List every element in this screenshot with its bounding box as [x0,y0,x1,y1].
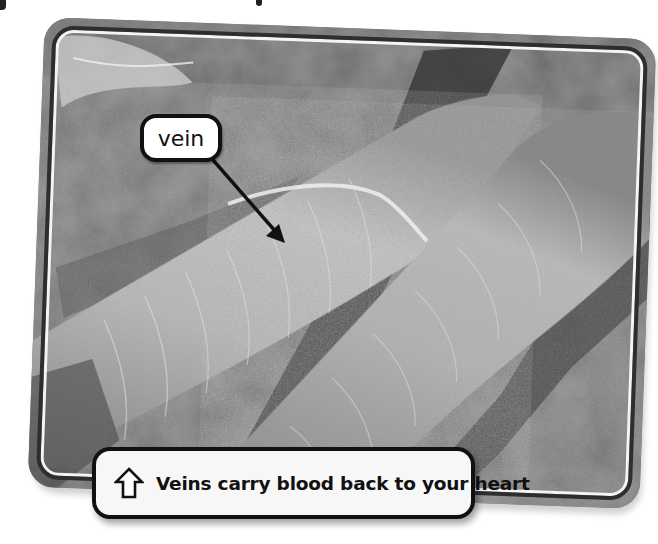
vein-micrograph-photo [28,17,657,509]
micrograph-frame [28,17,657,509]
vein-callout-text: vein [158,126,205,151]
page-edge-fragment [0,0,6,10]
page-edge-fragment [256,0,262,6]
caption-text: Veins carry blood back to your heart [156,473,530,494]
vein-callout-label: vein [140,114,222,162]
micrograph-illustration [28,17,657,509]
caption-box: Veins carry blood back to your heart [92,447,475,519]
up-arrow-outline-icon [114,467,144,499]
